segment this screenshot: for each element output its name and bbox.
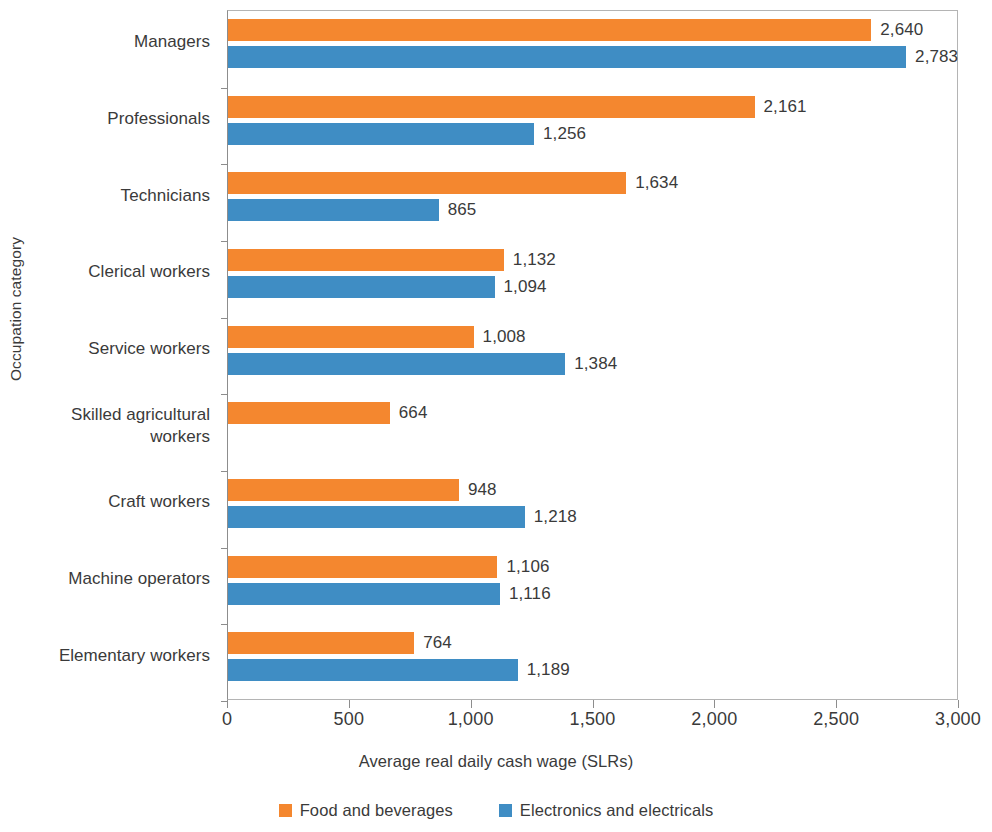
bar bbox=[228, 479, 459, 501]
category-label: Professionals bbox=[20, 108, 210, 130]
category-label-line: Craft workers bbox=[20, 491, 210, 513]
category-label-line: Professionals bbox=[20, 108, 210, 130]
category-label: Technicians bbox=[20, 185, 210, 207]
bar-value-label: 1,116 bbox=[509, 583, 551, 605]
bar bbox=[228, 506, 525, 528]
category-label-line: Machine operators bbox=[20, 568, 210, 590]
bar-value-label: 2,783 bbox=[915, 46, 958, 68]
x-axis-tick-label: 2,500 bbox=[776, 709, 896, 730]
bar bbox=[228, 276, 495, 298]
bar bbox=[228, 353, 565, 375]
bar-value-label: 1,256 bbox=[543, 123, 586, 145]
legend-label: Food and beverages bbox=[300, 801, 453, 820]
legend-swatch-icon bbox=[279, 804, 292, 817]
x-axis-tick bbox=[958, 700, 959, 708]
bar-value-label: 1,634 bbox=[635, 172, 678, 194]
category-axis-labels: ManagersProfessionalsTechniciansClerical… bbox=[20, 10, 218, 700]
category-label-line: Managers bbox=[20, 31, 210, 53]
category-label: Clerical workers bbox=[20, 261, 210, 283]
bar bbox=[228, 19, 871, 41]
legend-item[interactable]: Food and beverages bbox=[279, 801, 453, 820]
x-axis-tick bbox=[593, 700, 594, 708]
x-axis-tick-label: 500 bbox=[289, 709, 409, 730]
category-label: Managers bbox=[20, 31, 210, 53]
x-axis-tick bbox=[471, 700, 472, 708]
x-axis-tick-label: 1,500 bbox=[533, 709, 653, 730]
category-label: Craft workers bbox=[20, 491, 210, 513]
bar bbox=[228, 659, 518, 681]
y-axis-tick bbox=[221, 394, 228, 395]
category-label-line: Service workers bbox=[20, 338, 210, 360]
bar-value-label: 1,218 bbox=[534, 506, 577, 528]
chart-legend: Food and beveragesElectronics and electr… bbox=[0, 801, 992, 820]
category-label: Service workers bbox=[20, 338, 210, 360]
bar bbox=[228, 199, 439, 221]
legend-item[interactable]: Electronics and electricals bbox=[499, 801, 713, 820]
category-label: Elementary workers bbox=[20, 645, 210, 667]
x-axis-tick-label: 0 bbox=[167, 709, 287, 730]
bar-value-label: 1,094 bbox=[504, 276, 547, 298]
y-axis-tick bbox=[221, 548, 228, 549]
bar-value-label: 948 bbox=[468, 479, 497, 501]
bar bbox=[228, 172, 626, 194]
bar bbox=[228, 632, 414, 654]
category-label-line: Elementary workers bbox=[20, 645, 210, 667]
y-axis-tick bbox=[221, 471, 228, 472]
bar-value-label: 865 bbox=[448, 199, 477, 221]
bar-value-label: 1,132 bbox=[513, 249, 556, 271]
bar-value-label: 664 bbox=[399, 402, 428, 424]
bar-value-label: 2,161 bbox=[764, 96, 807, 118]
bar-value-label: 764 bbox=[423, 632, 452, 654]
bar-value-label: 2,640 bbox=[880, 19, 923, 41]
category-label-line: Technicians bbox=[20, 185, 210, 207]
category-label-line: Clerical workers bbox=[20, 261, 210, 283]
bar bbox=[228, 402, 390, 424]
category-label-line: workers bbox=[20, 426, 210, 448]
bar bbox=[228, 556, 497, 578]
x-axis-tick bbox=[227, 700, 228, 708]
category-label-line: Skilled agricultural bbox=[20, 404, 210, 426]
y-axis-tick bbox=[221, 241, 228, 242]
category-label: Machine operators bbox=[20, 568, 210, 590]
x-axis-tick-label: 3,000 bbox=[898, 709, 992, 730]
bar-value-label: 1,384 bbox=[574, 353, 617, 375]
legend-label: Electronics and electricals bbox=[520, 801, 713, 820]
x-axis-tick bbox=[714, 700, 715, 708]
bar bbox=[228, 46, 906, 68]
legend-swatch-icon bbox=[499, 804, 512, 817]
y-axis-tick bbox=[221, 624, 228, 625]
plot-area: 2,6402,7832,1611,2561,6348651,1321,0941,… bbox=[227, 10, 958, 700]
bar-value-label: 1,008 bbox=[483, 326, 526, 348]
x-axis-tick bbox=[836, 700, 837, 708]
y-axis-tick bbox=[221, 318, 228, 319]
category-label: Skilled agriculturalworkers bbox=[20, 404, 210, 448]
bar bbox=[228, 326, 474, 348]
bar bbox=[228, 249, 504, 271]
bar bbox=[228, 583, 500, 605]
bar-value-label: 1,106 bbox=[506, 556, 549, 578]
bar-value-label: 1,189 bbox=[527, 659, 570, 681]
bar bbox=[228, 123, 534, 145]
bar bbox=[228, 96, 755, 118]
x-axis-tick-label: 1,000 bbox=[411, 709, 531, 730]
y-axis-tick bbox=[221, 88, 228, 89]
x-axis-title: Average real daily cash wage (SLRs) bbox=[0, 752, 992, 771]
bar-chart: Occupation category ManagersProfessional… bbox=[0, 0, 992, 832]
x-axis-tick bbox=[349, 700, 350, 708]
x-axis-tick-label: 2,000 bbox=[654, 709, 774, 730]
y-axis-tick bbox=[221, 164, 228, 165]
